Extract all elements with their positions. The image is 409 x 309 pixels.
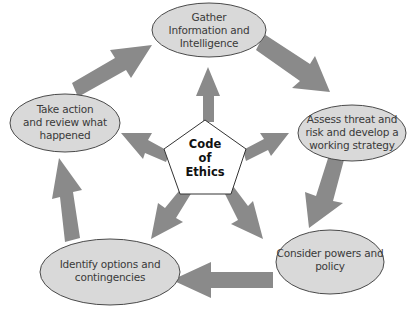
node-assess-line-1: Assess threat and: [298, 113, 406, 126]
cycle-arrow-assess-to-consider: [305, 152, 345, 228]
hub-line-1: Code: [170, 137, 240, 151]
node-take-action-line-3: happened: [11, 129, 119, 142]
node-take-action-line-1: Take action: [11, 103, 119, 116]
hub-line-2: of: [170, 151, 240, 165]
ethics-cycle-diagram: Gather Information and Intelligence Asse…: [0, 0, 409, 309]
node-take-action-line-2: and review what: [11, 116, 119, 129]
cycle-arrow-identify-to-take-action: [52, 158, 82, 242]
node-assess-line-3: working strategy: [298, 139, 406, 152]
node-gather-line-3: Intelligence: [152, 37, 266, 50]
node-assess-label: Assess threat and risk and develop a wor…: [298, 113, 406, 152]
hub-line-3: Ethics: [170, 165, 240, 179]
hub-arrow-to-assess: [243, 133, 289, 161]
node-identify-line-2: contingencies: [42, 271, 178, 284]
node-consider-line-1: Consider powers and: [274, 247, 386, 260]
node-consider-line-2: policy: [274, 260, 386, 273]
cycle-arrow-consider-to-identify: [172, 262, 273, 298]
node-identify-line-1: Identify options and: [42, 258, 178, 271]
node-identify-label: Identify options and contingencies: [42, 258, 178, 284]
hub-arrow-to-take-action: [121, 133, 170, 162]
node-gather-line-1: Gather: [152, 11, 266, 24]
node-consider-label: Consider powers and policy: [274, 247, 386, 273]
node-gather-line-2: Information and: [152, 24, 266, 37]
hub-arrow-to-gather: [196, 67, 220, 122]
node-take-action-label: Take action and review what happened: [11, 103, 119, 142]
hub-label: Code of Ethics: [170, 137, 240, 179]
node-gather-label: Gather Information and Intelligence: [152, 11, 266, 50]
node-assess-line-2: risk and develop a: [298, 126, 406, 139]
cycle-arrow-gather-to-assess: [256, 34, 330, 92]
cycle-arrow-take-action-to-gather: [72, 45, 152, 97]
